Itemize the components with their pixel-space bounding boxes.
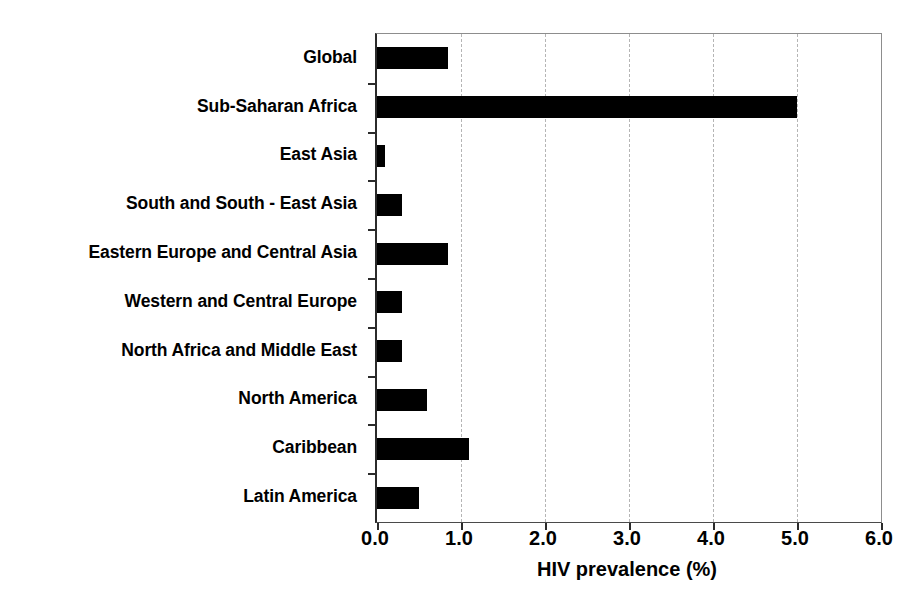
category-axis-labels: GlobalSub-Saharan AfricaEast AsiaSouth a… bbox=[0, 33, 367, 521]
x-axis-tick-label: 6.0 bbox=[865, 527, 893, 550]
x-axis-tick-label: 4.0 bbox=[697, 527, 725, 550]
x-axis-tick-label: 2.0 bbox=[529, 527, 557, 550]
bar-slot bbox=[377, 327, 881, 376]
bar-slot bbox=[377, 473, 881, 522]
bar bbox=[377, 194, 402, 216]
x-axis-tick-labels: 0.01.02.03.04.05.06.0 bbox=[375, 527, 879, 553]
bar-slot bbox=[377, 278, 881, 327]
y-axis-tick bbox=[368, 376, 377, 378]
category-label: South and South - East Asia bbox=[0, 179, 367, 228]
bar-slot bbox=[377, 180, 881, 229]
category-label: North America bbox=[0, 375, 367, 424]
category-label: East Asia bbox=[0, 131, 367, 180]
x-axis-tick-label: 0.0 bbox=[361, 527, 389, 550]
bar bbox=[377, 47, 448, 69]
x-axis-tick-label: 5.0 bbox=[781, 527, 809, 550]
category-label: Sub-Saharan Africa bbox=[0, 82, 367, 131]
bar bbox=[377, 243, 448, 265]
bar-slot bbox=[377, 424, 881, 473]
bar bbox=[377, 438, 469, 460]
category-label: Latin America bbox=[0, 472, 367, 521]
bar-slot bbox=[377, 132, 881, 181]
bar bbox=[377, 96, 797, 118]
y-axis-tick bbox=[368, 473, 377, 475]
bar-slot bbox=[377, 229, 881, 278]
category-label: Global bbox=[0, 33, 367, 82]
bar bbox=[377, 487, 419, 509]
plot-area bbox=[375, 33, 882, 523]
hiv-prevalence-bar-chart: GlobalSub-Saharan AfricaEast AsiaSouth a… bbox=[0, 0, 922, 616]
category-label: North Africa and Middle East bbox=[0, 326, 367, 375]
category-label: Eastern Europe and Central Asia bbox=[0, 228, 367, 277]
x-axis-tick-label: 1.0 bbox=[445, 527, 473, 550]
y-axis-tick bbox=[368, 132, 377, 134]
bar-slot bbox=[377, 83, 881, 132]
x-axis-tick-label: 3.0 bbox=[613, 527, 641, 550]
y-axis-tick bbox=[368, 180, 377, 182]
bar-slot bbox=[377, 34, 881, 83]
bar-slot bbox=[377, 376, 881, 425]
y-axis-tick bbox=[368, 278, 377, 280]
bar bbox=[377, 389, 427, 411]
y-axis-tick bbox=[368, 83, 377, 85]
category-label: Western and Central Europe bbox=[0, 277, 367, 326]
y-axis-tick bbox=[368, 424, 377, 426]
category-label: Caribbean bbox=[0, 423, 367, 472]
x-axis-title: HIV prevalence (%) bbox=[375, 558, 879, 581]
bar bbox=[377, 291, 402, 313]
bar-series bbox=[377, 34, 881, 522]
bar bbox=[377, 145, 385, 167]
bar bbox=[377, 340, 402, 362]
y-axis-tick bbox=[368, 229, 377, 231]
y-axis-tick bbox=[368, 327, 377, 329]
